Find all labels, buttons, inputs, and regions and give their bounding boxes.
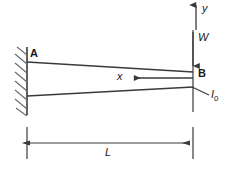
tapered-beam	[27, 62, 193, 96]
fixed-support-hatch-icon	[15, 47, 27, 116]
diagram-canvas	[0, 0, 229, 172]
label-y-axis: y	[202, 3, 208, 14]
cantilever-beam-diagram: A B y W x I0 L	[0, 0, 229, 172]
label-point-a: A	[30, 48, 38, 59]
beam-top-edge	[27, 62, 193, 72]
label-inertia-subscript: 0	[214, 94, 218, 103]
label-x-coordinate: x	[117, 71, 123, 82]
label-length-l: L	[105, 147, 111, 158]
inertia-leader-line	[192, 87, 209, 95]
label-second-moment-of-area: I0	[211, 89, 218, 103]
label-point-b: B	[198, 68, 206, 79]
fixed-support	[15, 47, 27, 116]
beam-bottom-edge	[27, 87, 193, 96]
label-load-w: W	[198, 32, 208, 43]
